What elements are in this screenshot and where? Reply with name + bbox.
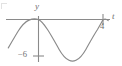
figure-container: y t 4 −6 (0, 0, 122, 66)
tick-label-t-4: 4 (100, 22, 104, 31)
y-axis-label: y (35, 2, 39, 11)
tick-label-y-minus6: −6 (18, 50, 27, 59)
t-axis-label: t (112, 12, 115, 21)
